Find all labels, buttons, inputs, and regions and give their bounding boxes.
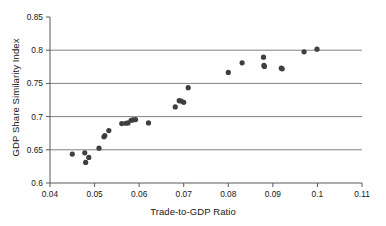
x-tick-label: 0.06 xyxy=(131,189,148,199)
data-point xyxy=(96,146,101,151)
plot-canvas: 0.040.050.060.070.080.090.10.11 0.60.650… xyxy=(0,0,386,226)
y-axis-ticks: 0.60.650.70.750.80.85 xyxy=(27,12,50,188)
gridlines xyxy=(50,50,362,150)
x-tick-label: 0.09 xyxy=(265,189,282,199)
data-points xyxy=(70,47,320,165)
x-axis-ticks: 0.040.050.060.070.080.090.10.11 xyxy=(42,183,370,199)
data-point xyxy=(133,117,138,122)
x-axis-title: Trade-to-GDP Ratio xyxy=(0,206,386,217)
y-tick-label: 0.7 xyxy=(31,112,43,122)
scatter-chart-figure: 0.040.050.060.070.080.090.10.11 0.60.650… xyxy=(0,0,386,226)
data-point xyxy=(226,70,231,75)
data-point xyxy=(173,104,178,109)
x-tick-label: 0.04 xyxy=(42,189,59,199)
y-tick-label: 0.8 xyxy=(31,45,43,55)
x-tick-label: 0.1 xyxy=(312,189,324,199)
data-point xyxy=(261,55,266,60)
y-tick-label: 0.65 xyxy=(27,145,44,155)
data-point xyxy=(262,64,267,69)
axes xyxy=(50,17,362,183)
x-tick-label: 0.05 xyxy=(86,189,103,199)
data-point xyxy=(106,128,111,133)
data-point xyxy=(83,160,88,165)
data-point xyxy=(70,152,75,157)
data-point xyxy=(82,150,87,155)
y-axis-title: GDP Share Similarity Index xyxy=(10,23,21,173)
data-point xyxy=(186,85,191,90)
x-tick-label: 0.08 xyxy=(220,189,237,199)
y-axis-title-container: GDP Share Similarity Index xyxy=(0,0,18,190)
data-point xyxy=(86,155,91,160)
x-tick-label: 0.11 xyxy=(354,189,370,199)
data-point xyxy=(240,60,245,65)
data-point xyxy=(102,133,107,138)
y-tick-label: 0.6 xyxy=(31,178,43,188)
data-point xyxy=(181,100,186,105)
data-point xyxy=(280,66,285,71)
x-tick-label: 0.07 xyxy=(176,189,193,199)
data-point xyxy=(314,47,319,52)
y-tick-label: 0.85 xyxy=(27,12,44,22)
data-point xyxy=(146,120,151,125)
data-point xyxy=(301,49,306,54)
y-tick-label: 0.75 xyxy=(27,78,44,88)
